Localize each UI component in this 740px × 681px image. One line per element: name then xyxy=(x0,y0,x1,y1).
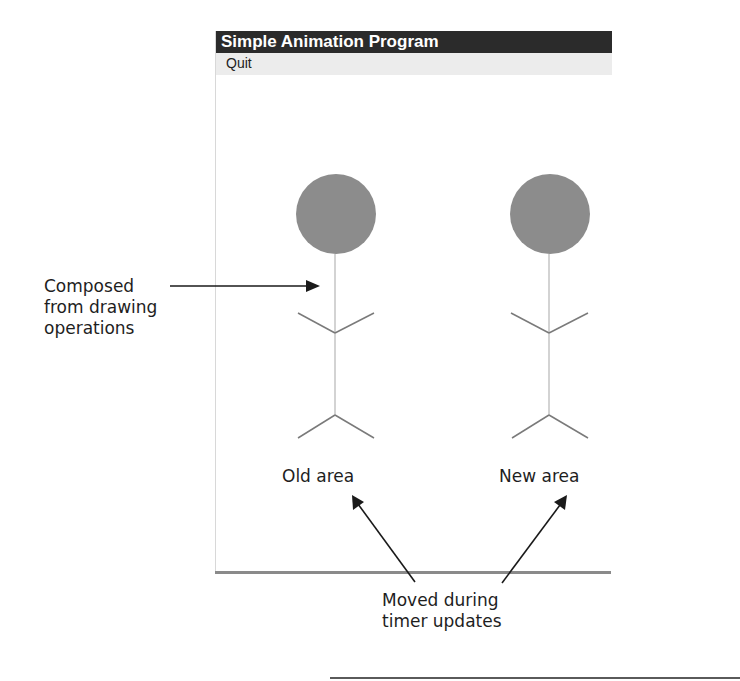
arrow-old-area xyxy=(352,495,415,582)
arrow-new-area xyxy=(502,495,567,583)
new-area-label: New area xyxy=(499,466,579,486)
arrow-composed xyxy=(170,280,320,292)
page-rule xyxy=(330,677,740,679)
callout-composed: Composed from drawing operations xyxy=(44,276,157,339)
stick-figure-new-body xyxy=(511,254,588,438)
drawing-overlay xyxy=(0,0,740,681)
old-area-label: Old area xyxy=(282,466,354,486)
callout-moved: Moved during timer updates xyxy=(382,590,502,632)
